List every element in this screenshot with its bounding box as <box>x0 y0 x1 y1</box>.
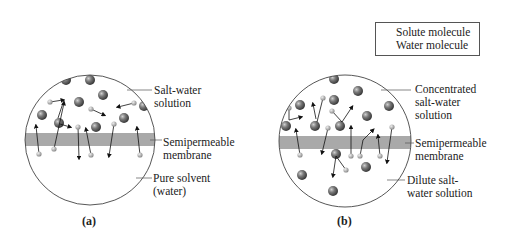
panel-a-caption: (a) <box>82 214 96 229</box>
panel-b-top-label-3: solution <box>415 109 452 122</box>
panel-a-top-label-2: solution <box>154 97 191 110</box>
legend: Solute molecule Water molecule <box>375 22 480 56</box>
panel-b-membrane-label-2: membrane <box>415 150 464 163</box>
panel-a-circle <box>20 75 160 205</box>
panel-a-bottom-label-1: Pure solvent <box>153 172 210 185</box>
membrane-band-b <box>275 136 420 149</box>
panel-a-membrane-label-2: membrane <box>163 149 212 162</box>
panel-b-bottom-label-2: water solution <box>407 187 472 200</box>
panel-b-top-label-1: Concentrated <box>415 83 476 96</box>
panel-b-bottom-label-1: Dilute salt- <box>407 174 458 187</box>
panel-a-top-label-1: Salt-water <box>154 84 201 97</box>
panel-b-membrane-label-1: Semipermeable <box>415 137 487 150</box>
panel-b-caption: (b) <box>337 214 352 229</box>
panel-a-bottom-label-2: (water) <box>153 185 186 198</box>
legend-solute-label: Solute molecule <box>396 26 470 39</box>
panel-b-circle <box>275 74 420 207</box>
solute-molecules-b <box>281 74 394 196</box>
panel-b-top-label-2: salt-water <box>415 96 460 109</box>
legend-water-label: Water molecule <box>396 39 468 52</box>
panel-a-membrane-label-1: Semipermeable <box>163 136 235 149</box>
